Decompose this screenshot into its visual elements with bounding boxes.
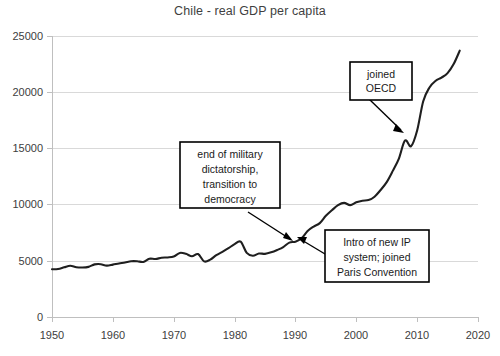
x-tick-label: 1950 bbox=[40, 329, 64, 341]
x-axis-tickmarks bbox=[52, 317, 478, 322]
x-axis-labels: 1950 1960 1970 1980 1990 2000 2010 2020 bbox=[40, 329, 490, 341]
annotation-line: Paris Convention bbox=[337, 266, 417, 278]
annotation-line: Intro of new IP bbox=[343, 236, 411, 248]
x-tick-label: 2000 bbox=[344, 329, 368, 341]
annotation-intro-ip-system[interactable]: Intro of new IP system; joined Paris Con… bbox=[325, 230, 429, 282]
x-tick-label: 1990 bbox=[283, 329, 307, 341]
x-tick-label: 2020 bbox=[466, 329, 490, 341]
annotation-line: democracy bbox=[204, 193, 256, 205]
arrowhead-oecd bbox=[393, 124, 404, 133]
annotation-line: OECD bbox=[366, 82, 397, 94]
annotation-line: transition to bbox=[203, 178, 257, 190]
x-tick-label: 2010 bbox=[405, 329, 429, 341]
arrowhead-dictatorship bbox=[283, 232, 293, 241]
annotation-line: dictatorship, bbox=[202, 163, 259, 175]
y-tick-label: 10000 bbox=[12, 198, 43, 210]
y-axis-labels: 25000 20000 15000 10000 5000 0 bbox=[12, 30, 43, 323]
y-tick-label: 25000 bbox=[12, 30, 43, 42]
annotation-line: joined bbox=[366, 68, 395, 80]
chart-container: Chile - real GDP per capita 25000 20000 … bbox=[0, 0, 500, 356]
y-tick-label: 0 bbox=[37, 311, 43, 323]
y-tick-label: 20000 bbox=[12, 86, 43, 98]
x-tick-label: 1960 bbox=[101, 329, 125, 341]
annotation-line: end of military bbox=[197, 148, 263, 160]
y-tick-label: 5000 bbox=[19, 255, 43, 267]
y-axis-tickmarks bbox=[47, 36, 52, 317]
annotation-joined-oecd[interactable]: joined OECD bbox=[350, 62, 412, 100]
x-tick-label: 1980 bbox=[223, 329, 247, 341]
annotation-end-of-dictatorship[interactable]: end of military dictatorship, transition… bbox=[180, 142, 280, 208]
chart-title: Chile - real GDP per capita bbox=[0, 4, 500, 18]
y-tick-label: 15000 bbox=[12, 142, 43, 154]
x-tick-label: 1970 bbox=[162, 329, 186, 341]
chart-plot-svg: 25000 20000 15000 10000 5000 0 1950 1960… bbox=[0, 0, 500, 356]
leader-line-dictatorship bbox=[248, 212, 290, 239]
annotation-line: system; joined bbox=[343, 251, 410, 263]
